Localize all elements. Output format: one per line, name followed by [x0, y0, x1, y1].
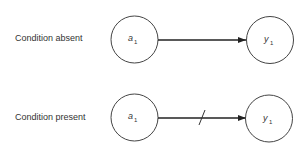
- row-condition-present: Condition present a 1 y 1: [15, 94, 293, 142]
- node-name: y: [263, 34, 269, 44]
- target-node: y 1: [246, 95, 293, 142]
- row-condition-absent: Condition absent a 1 y 1: [15, 16, 294, 64]
- node-name: y: [262, 113, 268, 123]
- node-name: a: [128, 33, 133, 43]
- row-label: Condition present: [15, 112, 86, 122]
- node-name: a: [128, 111, 133, 121]
- source-node: a 1: [111, 94, 158, 141]
- row-label: Condition absent: [15, 33, 83, 43]
- node-subscript: 1: [270, 40, 274, 46]
- node-subscript: 1: [134, 39, 138, 45]
- causal-diagram: Condition absent a 1 y 1 Condition prese…: [0, 0, 303, 160]
- node-subscript: 1: [269, 119, 273, 125]
- source-node: a 1: [111, 16, 158, 63]
- node-subscript: 1: [134, 117, 138, 123]
- target-node: y 1: [247, 17, 294, 64]
